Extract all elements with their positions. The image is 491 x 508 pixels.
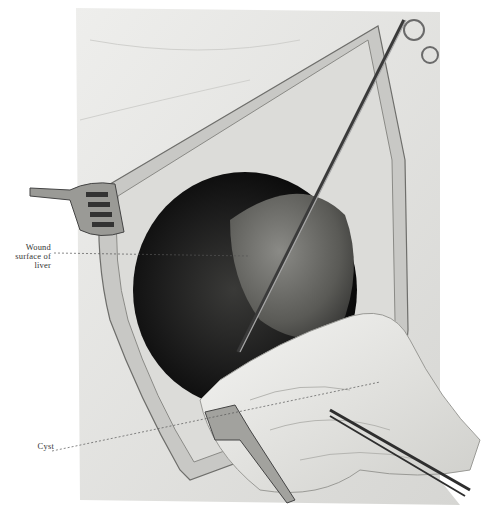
wound-surface-label: Wound surface of liver [14,243,51,270]
illustration-svg [0,0,491,508]
wound-label-line-3: liver [14,261,51,270]
surgical-illustration: Wound surface of liver Cyst [0,0,491,508]
cyst-label: Cyst [24,442,54,451]
retractor-left [30,183,124,236]
